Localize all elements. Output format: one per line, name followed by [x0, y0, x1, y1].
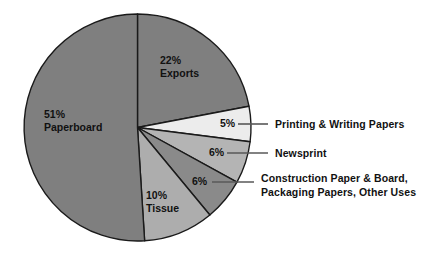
callout-label-printing-writing-papers-line-1: Printing & Writing Papers: [275, 118, 405, 130]
callout-label-construction-paper-board-line-1: Construction Paper & Board,: [261, 172, 408, 184]
callout-label-newsprint-line-1: Newsprint: [275, 147, 327, 159]
pie-chart-figure: 22%Exports5%Printing & Writing Papers6%N…: [0, 0, 438, 255]
callout-percent-newsprint: 6%: [209, 146, 225, 158]
slice-name-exports: Exports: [160, 67, 199, 79]
callout-percent-printing-writing-papers: 5%: [220, 117, 236, 129]
slice-percent-exports: 22%: [160, 54, 182, 66]
slice-percent-tissue: 10%: [146, 189, 168, 201]
callout-percent-construction-paper-board: 6%: [192, 175, 208, 187]
slice-name-paperboard: Paperboard: [44, 121, 102, 133]
slice-percent-paperboard: 51%: [44, 108, 66, 120]
pie-chart-canvas: 22%Exports5%Printing & Writing Papers6%N…: [0, 0, 438, 255]
slice-name-tissue: Tissue: [146, 202, 179, 214]
callout-label-construction-paper-board-line-2: Packaging Papers, Other Uses: [261, 186, 416, 198]
